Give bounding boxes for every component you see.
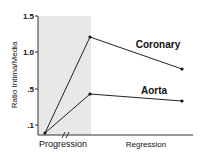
y-axis-label: Ratio Intima/Media — [10, 41, 19, 108]
x-label-regression: Regression — [126, 140, 166, 149]
legend-aorta: Aorta — [141, 85, 168, 96]
chart: 1.5 1.0 .5 .1 Ratio Intima/Media Coronar… — [0, 0, 203, 158]
y-tick-label: .5 — [27, 85, 34, 94]
progression-shaded-region — [38, 16, 91, 135]
y-tick-label: 1.0 — [23, 48, 35, 57]
x-label-progression: Progression — [39, 139, 87, 149]
y-tick-label: .1 — [27, 121, 34, 130]
y-tick-label: 1.5 — [23, 12, 35, 21]
legend-coronary: Coronary — [136, 39, 181, 50]
